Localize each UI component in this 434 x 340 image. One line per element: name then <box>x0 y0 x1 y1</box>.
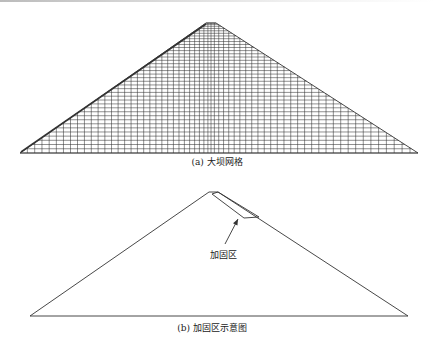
reinforcement-zone-label: 加固区 <box>210 248 237 261</box>
reinforcement-zone-figure <box>0 0 434 340</box>
figure-b-caption: (b) 加固区示意图 <box>177 321 247 334</box>
